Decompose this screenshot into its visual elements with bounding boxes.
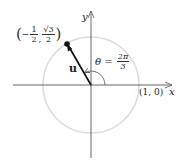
theta-symbol: θ: [95, 56, 101, 67]
vector-label: u: [69, 63, 77, 74]
point-label-x-sign: −: [22, 29, 30, 39]
unit-circle-diagram: (−12,√32) y θ = 2π3 u (1, 0) x: [0, 0, 194, 160]
point-label: (−12,√32): [16, 25, 61, 44]
point-label-close: ): [56, 25, 62, 43]
x-axis-label: x: [169, 87, 175, 97]
angle-label: θ = 2π3: [95, 52, 130, 71]
endpoint-dot: [64, 41, 70, 47]
angle-frac: 2π3: [117, 52, 129, 71]
y-axis-label: y: [82, 12, 88, 22]
diagram-canvas: [0, 0, 194, 160]
point-label-sep: ,: [39, 34, 42, 44]
point-label-y-frac: √32: [42, 25, 54, 44]
point-label-x-frac: 12: [30, 25, 37, 44]
angle-equals: =: [104, 56, 112, 67]
x-intercept-label: (1, 0): [139, 88, 163, 97]
